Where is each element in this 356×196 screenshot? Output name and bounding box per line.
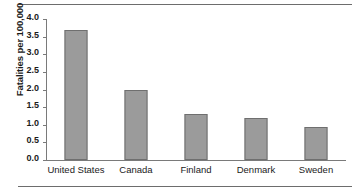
x-axis-line	[46, 160, 346, 161]
y-axis-tick-label: 2.5	[26, 65, 39, 75]
y-axis-tick-label: 0.0	[26, 153, 39, 163]
x-axis-category-labels: United StatesCanadaFinlandDenmarkSweden	[46, 164, 346, 180]
bar-slot	[226, 19, 286, 160]
bar	[305, 127, 328, 160]
y-axis-tick-label: 3.5	[26, 30, 39, 40]
bar	[245, 118, 268, 160]
x-axis-category-label: Sweden	[278, 164, 354, 175]
y-axis-tick-label: 4.0	[26, 12, 39, 22]
top-divider-rule	[18, 4, 352, 5]
bar	[65, 30, 88, 160]
y-axis-tick-label: 1.5	[26, 100, 39, 110]
bar-slot	[286, 19, 346, 160]
y-axis-tick-label: 0.5	[26, 135, 39, 145]
y-axis-title: Fatalities per 100,000	[14, 0, 25, 125]
bar-slot	[166, 19, 226, 160]
bar	[125, 90, 148, 161]
bar-slot	[46, 19, 106, 160]
bar-chart-figure: Fatalities per 100,000 0.00.51.01.52.02.…	[0, 0, 356, 196]
y-axis-tick-mark	[43, 160, 47, 161]
y-axis-tick-label: 3.0	[26, 47, 39, 57]
bar	[185, 114, 208, 160]
bottom-divider-rule	[18, 186, 352, 187]
y-axis-tick-label: 2.0	[26, 83, 39, 93]
plot-area: 0.00.51.01.52.02.53.03.54.0	[46, 19, 346, 160]
bar-series	[46, 19, 346, 160]
bar-slot	[106, 19, 166, 160]
y-axis-tick-label: 1.0	[26, 118, 39, 128]
